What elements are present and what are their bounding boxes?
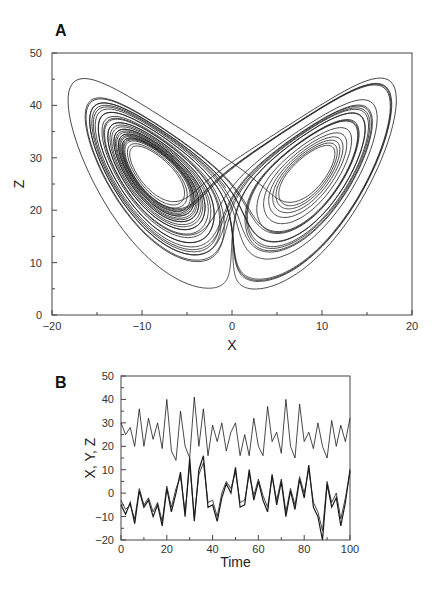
y-tick-label: −20	[95, 534, 114, 546]
y-axis-label: X, Y, Z	[82, 437, 98, 478]
series-z-line	[121, 397, 350, 460]
y-tick-label: 30	[102, 417, 114, 429]
chart-b-time-series: 020406080100−20−1001020304050TimeX, Y, Z	[0, 0, 436, 589]
y-tick-label: 20	[102, 440, 114, 452]
y-tick-label: 40	[102, 393, 114, 405]
y-tick-label: 0	[108, 487, 114, 499]
y-tick-label: 50	[102, 370, 114, 382]
x-tick-label: 0	[118, 543, 124, 555]
x-axis-label: Time	[220, 554, 251, 570]
series-x-line	[121, 456, 350, 540]
y-tick-label: −10	[95, 511, 114, 523]
x-tick-label: 60	[252, 543, 264, 555]
plot-frame	[121, 376, 350, 540]
x-tick-label: 100	[341, 543, 359, 555]
x-tick-label: 80	[298, 543, 310, 555]
series-y-line	[121, 463, 350, 531]
x-tick-label: 20	[161, 543, 173, 555]
x-tick-label: 40	[206, 543, 218, 555]
y-tick-label: 10	[102, 464, 114, 476]
